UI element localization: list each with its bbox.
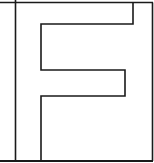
diagram-svg <box>0 0 154 163</box>
letter-f-diagram <box>0 0 154 163</box>
